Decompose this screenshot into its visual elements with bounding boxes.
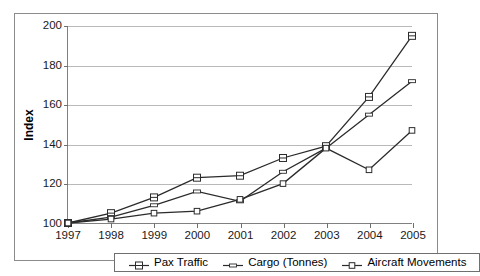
data-point-marker	[409, 32, 416, 39]
x-axis-tick-mark	[370, 223, 371, 228]
data-point-marker	[108, 216, 114, 222]
x-axis-tick-mark	[327, 223, 328, 228]
chart-frame: Index 100120140160180200 199719981999200…	[14, 13, 438, 261]
x-axis-tick-label: 2005	[400, 230, 426, 242]
x-axis-tick-mark	[241, 223, 242, 228]
y-axis-tick-label: 140	[43, 139, 62, 151]
data-point-marker	[409, 80, 416, 83]
x-axis-tick-label: 2000	[185, 230, 211, 242]
x-axis-tick-mark	[111, 223, 112, 228]
legend-item[interactable]: Pax Traffic	[128, 257, 208, 269]
series-plot	[68, 26, 412, 223]
data-point-marker	[151, 194, 158, 201]
legend-label: Pax Traffic	[154, 257, 208, 269]
data-point-marker	[237, 197, 243, 203]
data-point-marker	[194, 174, 201, 181]
data-point-marker	[350, 263, 356, 269]
x-axis-tick-label: 1998	[98, 230, 124, 242]
x-axis-tick-label: 1999	[141, 230, 167, 242]
x-axis-tick-label: 1997	[55, 230, 81, 242]
data-point-marker	[65, 220, 71, 226]
data-point-marker	[323, 145, 329, 151]
chart-legend: Pax TrafficCargo (Tonnes)Aircraft Moveme…	[114, 253, 480, 272]
x-axis-tick-mark	[413, 223, 414, 228]
legend-marker-icon	[222, 257, 244, 268]
x-axis-tick-label: 2003	[314, 230, 340, 242]
plot-area: 100120140160180200 199719981999200020012…	[67, 26, 412, 224]
data-point-marker	[409, 128, 415, 134]
data-point-marker	[280, 181, 286, 187]
data-point-marker	[194, 208, 200, 214]
y-axis-tick-label: 200	[43, 20, 62, 32]
data-point-marker	[280, 155, 287, 162]
x-axis-tick-mark	[284, 223, 285, 228]
data-point-marker	[366, 93, 373, 100]
x-axis-tick-mark	[154, 223, 155, 228]
data-point-marker	[280, 170, 287, 173]
x-axis-tick-label: 2002	[271, 230, 297, 242]
data-point-marker	[237, 172, 244, 179]
x-axis-tick-mark	[197, 223, 198, 228]
data-point-marker	[151, 210, 157, 216]
legend-item[interactable]: Cargo (Tonnes)	[222, 257, 327, 269]
legend-label: Aircraft Movements	[367, 257, 466, 269]
x-axis-tick-label: 2004	[357, 230, 383, 242]
legend-marker-icon	[341, 257, 363, 268]
legend-label: Cargo (Tonnes)	[248, 257, 327, 269]
y-axis-tick-label: 120	[43, 179, 62, 191]
y-axis-title: Index	[22, 109, 36, 140]
data-point-marker	[366, 113, 373, 116]
data-point-marker	[230, 264, 237, 267]
data-point-marker	[194, 190, 201, 193]
data-point-marker	[151, 204, 158, 207]
y-axis-tick-label: 180	[43, 60, 62, 72]
series-line	[68, 36, 412, 223]
data-point-marker	[366, 167, 372, 173]
legend-marker-icon	[128, 257, 150, 268]
x-axis-tick-label: 2001	[228, 230, 254, 242]
y-axis-tick-label: 160	[43, 99, 62, 111]
legend-item[interactable]: Aircraft Movements	[341, 257, 466, 269]
data-point-marker	[136, 262, 143, 269]
